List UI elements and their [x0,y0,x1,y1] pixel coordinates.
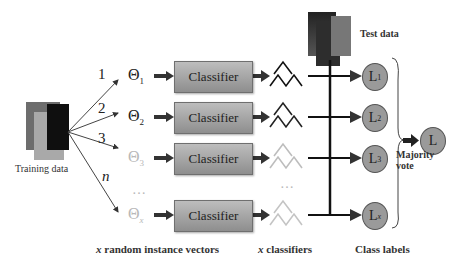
majority-vote-label: Majority vote [396,149,434,171]
classifier-box-1: Classifier [174,61,253,93]
tree-icon-2 [270,103,302,127]
ellipsis-trees: … [280,176,294,192]
class-label-3: L3 [362,145,388,173]
brace [392,58,404,228]
ellipsis-vectors: … [132,182,146,198]
branch-number-1: 1 [98,66,106,83]
arrow-theta-classifier-2 [154,112,174,122]
branch-number-2: 2 [98,100,106,117]
arrow-theta-classifier-x [154,210,174,220]
tree-icon-3 [270,144,302,168]
classifier-box-x: Classifier [174,200,253,232]
training-data-label: Training data [15,163,68,174]
class-label-2: L2 [362,104,388,132]
tree-icon-1 [270,62,302,86]
classifier-box-2: Classifier [174,102,253,134]
theta-vector-1: Θ1 [128,66,144,86]
test-data-label: Test data [360,28,399,39]
classifier-box-3: Classifier [174,143,253,175]
branch-number-n: n [102,168,110,185]
class-labels-title: Class labels [355,243,410,255]
class-label-x: Lx [362,202,388,230]
class-label-1: L1 [362,63,388,91]
arrow-theta-classifier-3 [154,153,174,163]
branch-number-3: 3 [98,130,106,147]
theta-vector-3: Θ3 [128,148,144,168]
random-vectors-label: x random instance vectors [96,243,219,255]
theta-vector-x: Θx [128,205,144,225]
test-data-icon [308,12,351,66]
arrow-theta-classifier-1 [154,71,174,81]
tree-icon-x [270,201,302,225]
classifiers-label: x classifiers [258,243,312,255]
training-data-icon [26,102,69,160]
theta-vector-2: Θ2 [128,107,144,127]
